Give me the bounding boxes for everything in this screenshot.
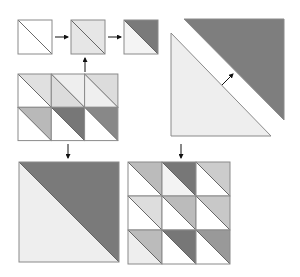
grid-3x3-cell [196, 196, 230, 230]
grid-3x2-cell [85, 107, 118, 140]
step-square-1 [18, 20, 52, 54]
grid-3x3-cell [128, 162, 162, 196]
quilt-diagram [0, 0, 300, 277]
step-square-3 [124, 20, 158, 54]
grid-3x3-cell [162, 196, 196, 230]
grid-3x2-cell [51, 74, 84, 107]
large-triangles-pair [171, 19, 284, 136]
big-square [19, 162, 119, 262]
grid-3x3-cell [162, 162, 196, 196]
step-square-2 [71, 20, 105, 54]
grid-3x2-cell [51, 107, 84, 140]
grid-3x2-cell [18, 74, 51, 107]
grid-3x2-cell [18, 107, 51, 140]
grid-3x3-cell [128, 230, 162, 264]
grid-3x2-cell [85, 74, 118, 107]
grid-3x3-cell [128, 196, 162, 230]
grid-3x3-cell [196, 230, 230, 264]
step-squares [18, 20, 158, 54]
grid-3x3-cell [196, 162, 230, 196]
grid-3x2-block [18, 74, 118, 141]
grid-3x3-cell [162, 230, 196, 264]
grid-3x3-block [128, 162, 230, 264]
large-half-square-triangle [19, 162, 119, 262]
arrow-triangles-together-icon [222, 74, 233, 85]
